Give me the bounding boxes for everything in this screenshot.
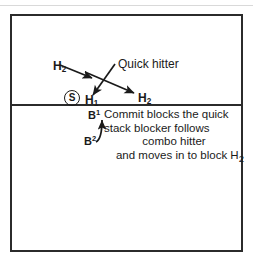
note-line-4-subscript: 2	[239, 153, 244, 164]
note-line-1: Commit blocks the quick	[104, 108, 244, 122]
player-label-h2-left: H2	[53, 60, 66, 72]
player-label-h1: H1	[85, 94, 98, 106]
diagram-page: S H2 Quick hitter H1 H2 B1 B2 Commit blo…	[0, 0, 253, 265]
arrow-b2-to-b1	[96, 120, 102, 142]
note-line-2: stack blocker follows	[104, 122, 244, 136]
play-note: Commit blocks the quick stack blocker fo…	[104, 108, 244, 165]
player-label-b1: B1	[88, 110, 100, 121]
h2-left-subscript: 2	[62, 65, 67, 74]
note-line-4-text: and moves in to block H	[116, 149, 239, 161]
page-top-rule	[0, 5, 253, 6]
h1-subscript: 1	[94, 99, 99, 108]
h2-right-letter: H	[138, 91, 147, 105]
b1-letter: B	[88, 109, 96, 121]
h2-right-subscript: 2	[147, 97, 152, 106]
arrow-quick-hitter-to-h1	[93, 64, 115, 95]
arrow-cross-to-h2-right	[85, 72, 134, 93]
player-label-b2: B2	[84, 136, 96, 147]
note-line-3: combo hitter	[104, 135, 244, 149]
b1-superscript: 1	[96, 108, 100, 117]
player-label-h2-right: H2	[138, 92, 151, 104]
setter-label: S	[69, 93, 76, 103]
setter-marker: S	[64, 90, 80, 106]
note-line-4: and moves in to block H2	[104, 149, 244, 166]
net-line	[12, 104, 241, 106]
b2-superscript: 2	[92, 134, 96, 143]
annotation-quick-hitter: Quick hitter	[118, 58, 179, 70]
h1-letter: H	[85, 93, 94, 107]
h2-left-letter: H	[53, 59, 62, 73]
b2-letter: B	[84, 135, 92, 147]
volleyball-court: S H2 Quick hitter H1 H2 B1 B2 Commit blo…	[10, 14, 243, 252]
